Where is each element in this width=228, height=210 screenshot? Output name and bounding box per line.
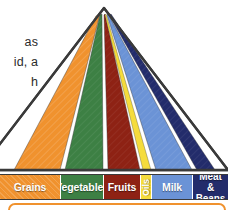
pyramid-graphic xyxy=(0,0,228,174)
label-oils: Oils xyxy=(141,176,152,197)
label-segment-oils[interactable]: Oils xyxy=(141,175,152,199)
label-segment-grains[interactable]: Grains xyxy=(0,175,61,199)
label-segment-fruits[interactable]: Fruits xyxy=(104,175,141,199)
label-grains: Grains xyxy=(12,182,49,193)
label-segment-meat-beans[interactable]: Meat & Beans xyxy=(193,175,228,199)
label-meat-beans: Meat & Beans xyxy=(193,175,228,199)
food-group-label-bar: Grains Vegetables Fruits Oils Milk Meat … xyxy=(0,174,228,200)
label-segment-vegetables[interactable]: Vegetables xyxy=(61,175,104,199)
bottom-orange-band xyxy=(8,203,226,210)
label-milk: Milk xyxy=(160,182,184,193)
label-segment-milk[interactable]: Milk xyxy=(152,175,193,199)
label-vegetables: Vegetables xyxy=(61,182,104,193)
mypyramid-figure: as id, a h xyxy=(0,0,228,210)
label-fruits: Fruits xyxy=(106,182,139,193)
